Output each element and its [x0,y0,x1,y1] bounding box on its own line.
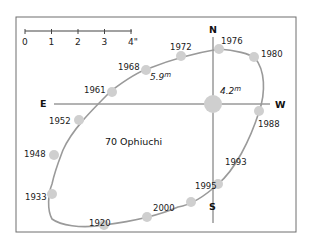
scale-tick-2: 2 [75,37,81,47]
orbit-point-1972 [176,51,186,61]
direction-south: S [209,201,216,212]
year-label-1972: 1972 [170,42,192,52]
primary-magnitude: 4.2m [220,85,241,96]
direction-east: E [40,98,47,109]
year-label-1995: 1995 [195,181,217,191]
primary-star [204,95,222,113]
scale-tick-4: 4" [128,37,138,47]
year-label-1933: 1933 [25,192,47,202]
year-labels: 1976 1980 1988 1993 1995 2000 1920 1933 … [24,36,283,228]
year-label-1980: 1980 [261,49,283,59]
orbit-point-1948 [49,150,59,160]
year-label-1968: 1968 [118,62,140,72]
year-label-1948: 1948 [24,149,46,159]
orbit-point-1995 [186,197,196,207]
year-label-1976: 1976 [221,36,243,46]
orbit-point-1968 [141,65,151,75]
orbit-point-1980 [249,52,259,62]
orbit-diagram: 0 1 2 3 4" N S E W 4.2m 5.9m 1976 [0,0,310,249]
direction-north: N [209,24,217,35]
orbit-point-2000 [142,212,152,222]
year-label-2000: 2000 [153,203,175,213]
scale-tick-3: 3 [102,37,108,47]
year-label-1961: 1961 [84,85,106,95]
orbit-point-1961 [107,87,117,97]
year-label-1993: 1993 [225,157,247,167]
orbit-point-1988 [254,106,264,116]
year-label-1920: 1920 [89,218,111,228]
orbit-point-1933 [47,189,57,199]
direction-west: W [275,99,286,110]
scale-tick-1: 1 [49,37,55,47]
scale-bar: 0 1 2 3 4" [22,29,138,47]
year-label-1988: 1988 [258,119,280,129]
diagram-title: 70 Ophiuchi [105,136,162,147]
companion-magnitude: 5.9m [150,71,171,82]
scale-tick-0: 0 [22,37,28,47]
orbit-point-1952 [74,115,84,125]
year-label-1952: 1952 [49,116,71,126]
